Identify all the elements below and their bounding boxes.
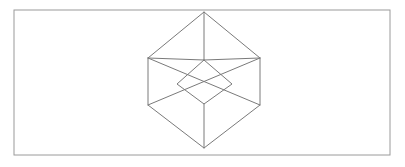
- wireframe-cube-figure: [0, 0, 405, 167]
- figure-canvas: [0, 0, 405, 167]
